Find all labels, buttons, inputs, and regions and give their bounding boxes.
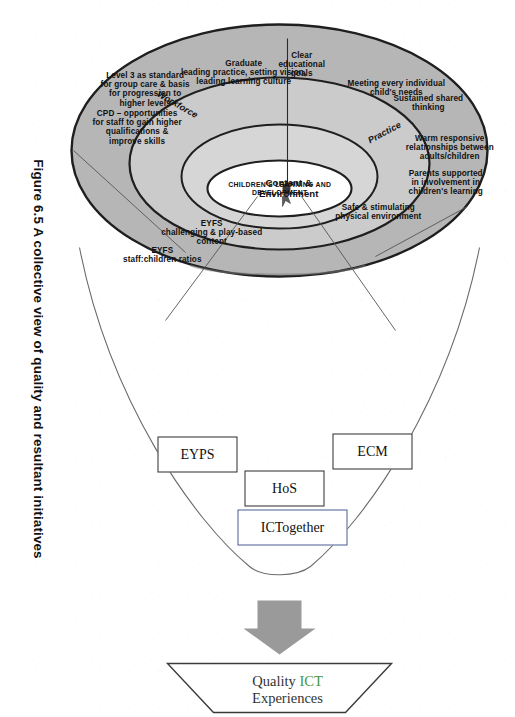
practice-item-2: Sustained shared thinking: [363, 94, 493, 112]
figure-diagram: Graduate leading practice, setting visio…: [45, 0, 515, 717]
content-item-1: EYFS challenging & play-based content: [136, 218, 286, 246]
outcome-text-highlight: ICT: [299, 672, 322, 688]
initiative-box-eyps[interactable]: EYPS: [157, 436, 237, 472]
flow-arrow-icon: [243, 600, 315, 654]
outcome-text-pre: Quality: [252, 672, 299, 688]
outcome-label: Quality ICT Experiences: [231, 669, 343, 709]
outcome-text-line2: Experiences: [252, 689, 323, 705]
figure-caption: Figure 6.5 A collective view of quality …: [30, 0, 45, 717]
core-label: CHILDREN'S LEARNING AND DEVELOPMENT: [201, 180, 357, 195]
practice-item-0: Clear educational goals: [251, 50, 351, 78]
practice-item-4: Parents supported in involvement in chil…: [375, 168, 515, 196]
content-item-0: Safe & stimulating physical environment: [308, 203, 448, 221]
content-item-2: EYFS staff:children ratios: [102, 246, 222, 264]
scanned-page: Graduate leading practice, setting visio…: [0, 0, 515, 717]
initiative-box-ictogether[interactable]: ICTogether: [237, 509, 347, 545]
initiative-box-ecm[interactable]: ECM: [332, 433, 412, 469]
initiative-box-hos[interactable]: HoS: [244, 470, 324, 506]
practice-item-3: Warm responsive relationships between ad…: [374, 133, 515, 161]
